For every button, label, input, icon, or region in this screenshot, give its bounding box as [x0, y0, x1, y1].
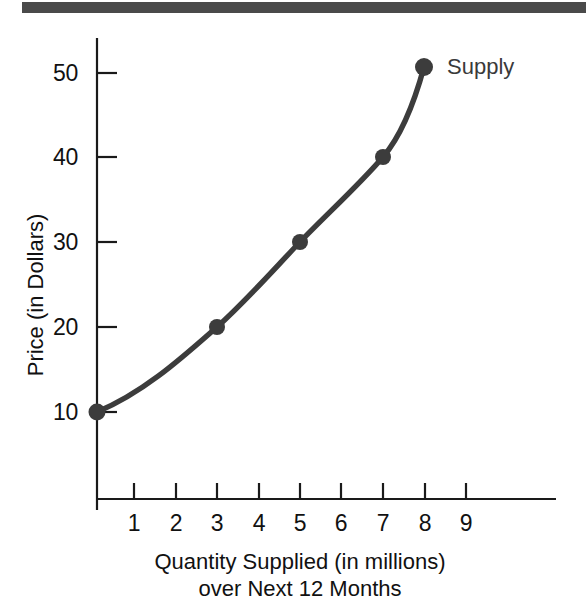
x-tick-label-1: 1 [121, 512, 147, 535]
x-axis-ticks [134, 483, 466, 499]
x-tick-label-2: 2 [163, 512, 189, 535]
y-axis-title: Price (in Dollars) [24, 165, 48, 425]
supply-data-markers [89, 58, 434, 421]
supply-series-label: Supply [447, 55, 514, 79]
supply-curve [97, 67, 424, 412]
x-axis-title: Quantity Supplied (in millions) over Nex… [70, 548, 530, 602]
data-point-marker [209, 319, 225, 335]
y-tick-label-50: 50 [32, 62, 78, 85]
data-point-marker [375, 149, 391, 165]
x-tick-label-7: 7 [370, 512, 396, 535]
data-point-marker [292, 234, 308, 250]
data-point-marker [89, 404, 106, 421]
x-tick-label-8: 8 [412, 512, 438, 535]
x-tick-label-3: 3 [204, 512, 230, 535]
y-axis-ticks [97, 73, 117, 412]
x-axis-title-line2: over Next 12 Months [70, 575, 530, 602]
x-tick-label-9: 9 [453, 512, 479, 535]
supply-curve-figure: 50 40 30 20 10 1 2 3 4 5 6 7 8 9 Price (… [0, 0, 586, 609]
x-tick-label-5: 5 [287, 512, 313, 535]
data-point-marker [415, 58, 433, 76]
x-axis-title-line1: Quantity Supplied (in millions) [70, 548, 530, 575]
x-tick-label-4: 4 [246, 512, 272, 535]
x-tick-label-6: 6 [328, 512, 354, 535]
